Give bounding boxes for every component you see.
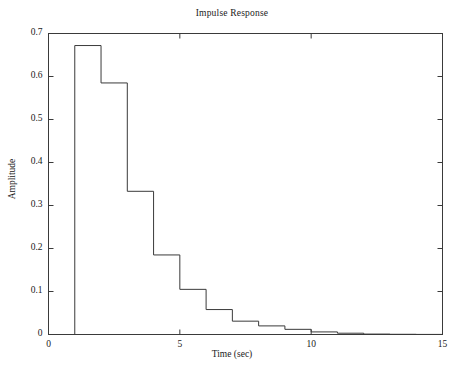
figure-canvas: Impulse Response 00.10.20.30.40.50.60.7 … <box>0 0 464 377</box>
y-tick-label: 0.1 <box>9 285 43 295</box>
axes-box <box>49 34 443 335</box>
y-tick-label: 0 <box>9 328 43 338</box>
y-tick-label: 0.7 <box>9 27 43 37</box>
y-axis-ticks <box>49 77 443 292</box>
y-tick-label: 0.6 <box>9 70 43 80</box>
x-tick-label: 10 <box>296 339 326 349</box>
x-tick-label: 0 <box>34 339 64 349</box>
y-tick-label: 0.2 <box>9 242 43 252</box>
y-tick-label: 0.5 <box>9 113 43 123</box>
x-axis-label: Time (sec) <box>0 349 464 359</box>
data-series-layer <box>49 46 443 335</box>
plot-area <box>0 0 464 377</box>
x-tick-label: 15 <box>428 339 458 349</box>
impulse-response-stairs <box>49 46 443 335</box>
x-tick-label: 5 <box>165 339 195 349</box>
y-axis-label: Amplitude <box>7 139 17 219</box>
axes-frame <box>49 34 443 335</box>
